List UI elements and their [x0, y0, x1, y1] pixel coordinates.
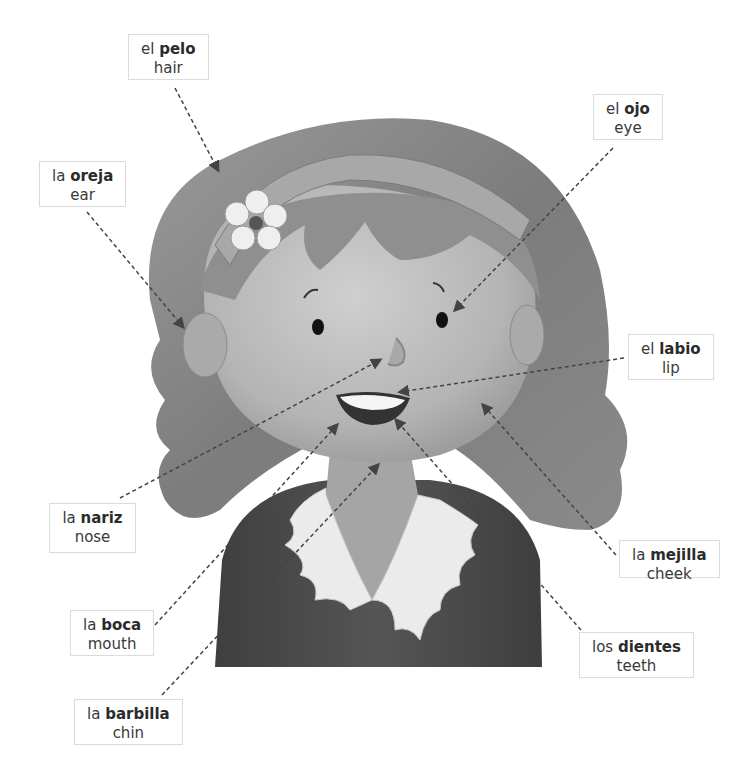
- label-english-word: ear: [52, 186, 113, 205]
- label-ojo: el ojoeye: [593, 94, 663, 140]
- label-mejilla: la mejillacheek: [619, 540, 720, 578]
- label-pelo: el pelohair: [128, 34, 209, 80]
- label-english-word: cheek: [632, 565, 707, 584]
- label-nariz: la nariznose: [49, 503, 136, 553]
- label-spanish-word: barbilla: [105, 705, 170, 723]
- leader-line-nariz: [120, 360, 380, 498]
- label-article: los: [592, 638, 618, 656]
- leader-line-boca: [155, 425, 337, 625]
- label-english-word: hair: [141, 59, 196, 78]
- leader-line-labio: [400, 358, 624, 392]
- label-english-word: lip: [641, 359, 701, 378]
- label-labio: el labiolip: [628, 334, 714, 380]
- label-spanish-word: dientes: [618, 638, 681, 656]
- label-article: el: [641, 340, 659, 358]
- label-article: la: [52, 167, 70, 185]
- label-english-word: mouth: [83, 635, 141, 654]
- label-english-word: nose: [62, 528, 123, 547]
- face-vocabulary-diagram: el pelohairla orejaearel ojoeyeel labiol…: [0, 0, 754, 776]
- label-spanish-word: ojo: [624, 100, 650, 118]
- label-article: la: [83, 616, 101, 634]
- label-article: la: [632, 546, 650, 564]
- label-english-word: teeth: [592, 657, 681, 676]
- label-spanish-word: mejilla: [650, 546, 707, 564]
- label-english-word: eye: [606, 119, 650, 138]
- label-oreja: la orejaear: [39, 161, 126, 207]
- label-spanish-word: oreja: [70, 167, 113, 185]
- label-spanish-word: boca: [101, 616, 141, 634]
- label-article: la: [62, 509, 80, 527]
- label-spanish-word: labio: [659, 340, 700, 358]
- label-spanish-word: pelo: [159, 40, 195, 58]
- label-article: el: [606, 100, 624, 118]
- leader-line-pelo: [175, 88, 218, 170]
- label-article: el: [141, 40, 159, 58]
- label-boca: la bocamouth: [70, 610, 154, 656]
- label-english-word: chin: [87, 724, 170, 743]
- label-spanish-word: nariz: [81, 509, 123, 527]
- leader-line-mejilla: [483, 405, 616, 555]
- leader-line-ojo: [455, 148, 613, 310]
- label-article: la: [87, 705, 105, 723]
- leader-line-oreja: [87, 212, 183, 327]
- leader-line-dientes: [396, 420, 581, 630]
- label-dientes: los dientesteeth: [579, 632, 694, 678]
- label-barbilla: la barbillachin: [74, 699, 183, 745]
